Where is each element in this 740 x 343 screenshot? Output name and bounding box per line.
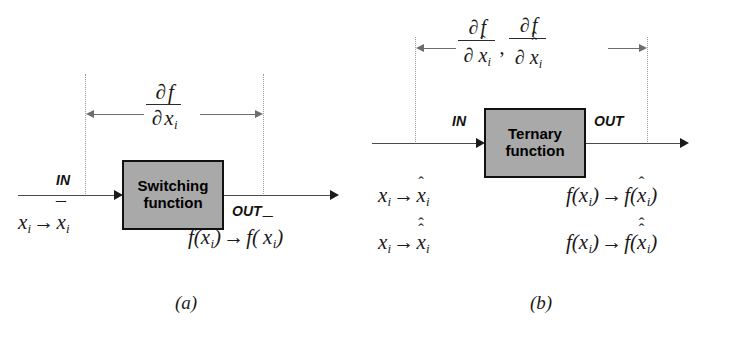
derivative-expression-a: ∂f ∂xi — [146, 82, 181, 131]
fraction-numerator: ∂f — [509, 14, 546, 39]
paren-close-to: ) — [650, 230, 657, 254]
fraction-df-dxhat: ∂f ∂ˆxi — [458, 16, 495, 69]
caption-b: (b) — [530, 292, 552, 314]
output-mapping-2-b: f(xi)→f(ˆˆxi) — [566, 232, 657, 255]
fraction-df-dxi: ∂f ∂xi — [146, 82, 181, 131]
dimension-arrowhead-right-b — [639, 44, 647, 52]
paren-close-from: ) — [592, 230, 599, 254]
partial-symbol: ∂ — [513, 46, 527, 68]
subscript-i: i — [488, 55, 491, 69]
function-from: f(x — [566, 230, 588, 254]
x-with-bar: ¯x — [56, 212, 65, 233]
function-symbol: f — [480, 16, 486, 38]
out-label-b: OUT — [594, 113, 624, 129]
fraction-df-dxdoublehat: ∂f ∂ˆˆxi — [509, 14, 546, 72]
ternary-function-label-line2: function — [505, 143, 564, 160]
paren-close-to: ) — [650, 183, 657, 207]
variable-x-to: x — [56, 212, 65, 233]
x-with-bar: ¯x — [263, 227, 272, 248]
paren-close-to: ) — [276, 225, 283, 249]
dimension-line-left-a — [94, 114, 144, 115]
figure-block-diagrams: ∂f ∂xi Switching function IN OUT xi→¯xi … — [0, 0, 740, 343]
variable-x-from: x — [378, 183, 387, 207]
variable-x-from: x — [378, 230, 387, 254]
partial-symbol: ∂ — [462, 44, 476, 66]
function-to-open: f( — [246, 225, 259, 249]
subscript-i-to: i — [66, 221, 70, 236]
dotted-guide-left-a — [85, 74, 86, 196]
arrow-symbol: → — [221, 225, 246, 249]
variable-x-to: x — [637, 185, 646, 206]
partial-symbol: ∂ — [518, 14, 532, 36]
x-with-double-hat: ˆˆx — [530, 46, 539, 69]
variable-x-to: x — [416, 185, 425, 206]
arrow-symbol: → — [31, 210, 56, 234]
variable-x-to: x — [263, 227, 272, 248]
fraction-denominator: ∂xi — [146, 105, 181, 130]
arrow-symbol: → — [391, 183, 416, 207]
dotted-guide-left-b — [415, 37, 416, 144]
fraction-numerator: ∂f — [458, 16, 495, 41]
input-mapping-a: xi→¯xi — [18, 212, 70, 235]
in-label-b: IN — [452, 113, 466, 129]
input-mapping-2-b: xi→ˆˆxi — [378, 232, 430, 255]
arrow-symbol: → — [391, 230, 416, 254]
separator-comma: , — [495, 36, 510, 59]
dimension-line-right-b — [608, 48, 640, 49]
paren-close-from: ) — [592, 183, 599, 207]
output-mapping-1-b: f(xi)→f(ˆxi) — [566, 185, 657, 208]
function-to-open: f( — [624, 183, 637, 207]
dotted-guide-right-b — [647, 37, 648, 144]
x-with-hat: ˆx — [637, 185, 646, 206]
function-symbol: f — [532, 14, 538, 36]
variable-x: x — [164, 106, 173, 130]
function-from: f(x — [188, 225, 210, 249]
in-label-a: IN — [56, 172, 70, 188]
ternary-function-label-line1: Ternary — [508, 126, 562, 143]
fraction-denominator: ∂ˆˆxi — [509, 39, 546, 72]
caption-a: (a) — [175, 292, 197, 314]
panel-a-switching-function: ∂f ∂xi Switching function IN OUT xi→¯xi … — [0, 0, 370, 343]
function-from: f(x — [566, 183, 588, 207]
partial-symbol: ∂ — [467, 16, 481, 38]
dimension-arrowhead-left-a — [86, 110, 94, 118]
dimension-arrowhead-left-b — [416, 44, 424, 52]
signal-line-in-b — [372, 143, 480, 144]
arrow-symbol: → — [599, 230, 624, 254]
subscript-i-to: i — [426, 241, 430, 256]
function-symbol: f — [168, 80, 174, 104]
x-with-hat: ˆx — [478, 44, 487, 67]
switching-function-box[interactable]: Switching function — [122, 160, 224, 230]
partial-symbol: ∂ — [150, 106, 165, 130]
subscript-i-to: i — [426, 194, 430, 209]
signal-line-out-b — [586, 143, 684, 144]
partial-symbol: ∂ — [153, 80, 168, 104]
derivative-expressions-b: ∂f ∂ˆxi , ∂f ∂ˆˆxi — [458, 14, 546, 72]
input-mapping-1-b: xi→ˆxi — [378, 185, 430, 208]
switching-function-label-line1: Switching — [138, 178, 209, 195]
signal-line-out-a — [222, 195, 334, 196]
x-with-double-hat: ˆˆx — [637, 232, 646, 253]
dotted-guide-right-a — [263, 74, 264, 196]
function-to-open: f( — [624, 230, 637, 254]
signal-arrowhead-out-b — [680, 138, 689, 148]
variable-x-from: x — [18, 210, 27, 234]
x-with-hat: ˆx — [416, 185, 425, 206]
dimension-line-right-a — [200, 114, 255, 115]
subscript-i: i — [174, 117, 178, 132]
panel-b-ternary-function: ∂f ∂ˆxi , ∂f ∂ˆˆxi Ternary function IN O… — [370, 0, 740, 343]
output-mapping-a: f(xi)→f(¯xi) — [188, 227, 283, 250]
arrow-symbol: → — [599, 183, 624, 207]
fraction-numerator: ∂f — [146, 82, 181, 105]
fraction-denominator: ∂ˆxi — [458, 41, 495, 69]
out-label-a: OUT — [232, 203, 262, 219]
x-with-double-hat: ˆˆx — [416, 232, 425, 253]
dimension-line-left-b — [424, 48, 456, 49]
ternary-function-box[interactable]: Ternary function — [484, 108, 586, 178]
switching-function-label-line2: function — [143, 195, 202, 212]
variable-x-to: x — [637, 232, 646, 253]
variable-x: x — [478, 44, 487, 67]
signal-line-in-a — [18, 195, 118, 196]
signal-arrowhead-out-a — [330, 190, 339, 200]
variable-x-to: x — [416, 232, 425, 253]
